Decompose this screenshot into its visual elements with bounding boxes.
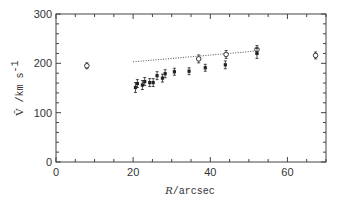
y-tick-label: 300 (34, 8, 52, 20)
x-tick-label: 60 (281, 166, 293, 178)
filled-square-marker (173, 70, 176, 73)
x-tick-label: 20 (127, 166, 139, 178)
open-circle-marker (224, 52, 229, 57)
filled-square-marker (155, 74, 158, 77)
filled-square-marker (204, 66, 207, 69)
y-axis-unit-exponent: -1 (10, 60, 21, 72)
filled-square-marker (152, 81, 155, 84)
filled-square-marker (187, 70, 190, 73)
filled-square-marker (141, 83, 144, 86)
x-axis-label: R/arcsec (164, 185, 215, 197)
y-tick-label: 0 (46, 156, 52, 168)
x-axis-unit: /arcsec (173, 186, 215, 197)
open-circle-marker (196, 57, 201, 62)
velocity-radius-chart: 02040600100200300 R/arcsec V̄ /km s-1 (0, 0, 343, 200)
filled-square-marker (148, 81, 151, 84)
filled-square-marker (224, 63, 227, 66)
dotted-trend-line (133, 51, 256, 62)
plot-area (56, 14, 326, 162)
filled-square-marker (255, 52, 258, 55)
x-tick-label: 40 (204, 166, 216, 178)
y-tick-label: 100 (34, 107, 52, 119)
open-circle-marker (85, 64, 90, 69)
y-axis-unit: /km s (15, 72, 26, 108)
plot-frame (56, 14, 326, 162)
data-layer (85, 46, 318, 93)
y-axis-label: V̄ /km s-1 (10, 60, 27, 116)
x-tick-label: 0 (53, 166, 59, 178)
y-tick-label: 200 (34, 57, 52, 69)
tick-labels: 02040600100200300 (34, 8, 294, 178)
axis-ticks (56, 14, 326, 162)
filled-square-marker (161, 77, 164, 80)
filled-square-marker (143, 80, 146, 83)
filled-square-marker (164, 72, 167, 75)
open-circle-marker (313, 53, 318, 58)
filled-square-marker (136, 82, 139, 85)
